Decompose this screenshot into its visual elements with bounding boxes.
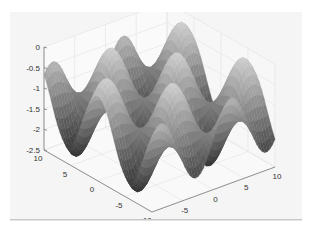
x-tick-label: -10 xyxy=(148,217,160,219)
x-tick-label: 0 xyxy=(213,195,218,204)
z-tick-label: -2 xyxy=(33,125,41,134)
y-tick-label: -5 xyxy=(115,201,123,210)
y-tick-label: 10 xyxy=(34,154,43,163)
figure-panel: 0-0.5-1-1.5-2-2.5-10-50510-10-50510 xyxy=(10,12,302,220)
surface-plot[interactable]: 0-0.5-1-1.5-2-2.5-10-50510-10-50510 xyxy=(10,12,302,219)
y-tick-label: 5 xyxy=(63,170,68,179)
x-tick-label: -5 xyxy=(181,206,189,215)
z-tick-label: -1.5 xyxy=(26,105,40,114)
x-tick-label: 5 xyxy=(244,183,249,192)
z-tick-label: -0.5 xyxy=(26,64,40,73)
x-tick-label: 10 xyxy=(273,172,282,181)
z-tick-label: 0 xyxy=(36,43,41,52)
z-tick-label: -1 xyxy=(33,84,41,93)
y-tick-label: 0 xyxy=(90,185,95,194)
